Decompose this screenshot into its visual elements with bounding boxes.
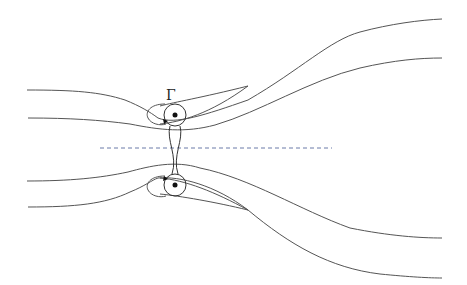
lower-bubble bbox=[147, 176, 166, 197]
vortex-core-dot bbox=[173, 183, 178, 188]
diagram-canvas: Γ bbox=[0, 0, 467, 285]
streamline-lower-outer bbox=[28, 178, 442, 278]
vortex-core-dot bbox=[173, 113, 178, 118]
circulation-label: Γ bbox=[166, 87, 176, 103]
vortex-connector bbox=[169, 126, 181, 174]
streamline-lower-loop bbox=[160, 178, 248, 210]
streamline-upper-outer bbox=[27, 19, 442, 120]
upper-bubble bbox=[147, 104, 166, 125]
streamline-upper-inner bbox=[28, 58, 442, 130]
